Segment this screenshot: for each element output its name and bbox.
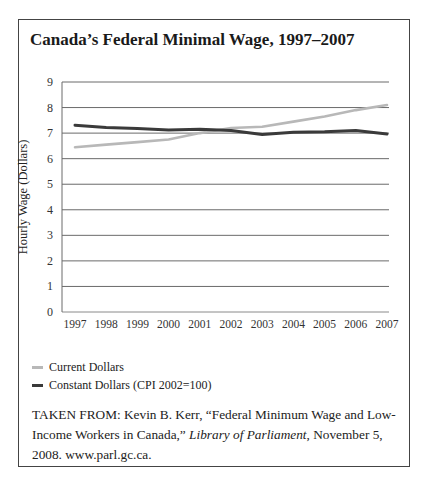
gridlines	[62, 82, 389, 312]
x-tick-label: 2004	[282, 318, 305, 330]
x-tick-label: 2007	[376, 318, 399, 330]
legend-swatch-current	[32, 366, 43, 369]
x-tick-label: 2002	[220, 318, 243, 330]
y-axis: 0123456789	[47, 75, 62, 319]
y-tick-label: 1	[47, 279, 53, 293]
x-tick-label: 1999	[126, 318, 149, 330]
legend-item-constant: Constant Dollars (CPI 2002=100)	[32, 376, 211, 394]
y-tick-label: 4	[47, 203, 53, 217]
y-axis-label: Hourly Wage (Dollars)	[16, 140, 30, 255]
x-tick-label: 2003	[251, 318, 274, 330]
source-publication: Library of Parliament	[189, 427, 306, 442]
y-tick-label: 8	[47, 101, 53, 115]
x-tick-label: 1998	[95, 318, 118, 330]
y-tick-label: 3	[47, 228, 53, 242]
x-axis: 1997199819992000200120022003200420052006…	[64, 318, 399, 330]
y-tick-label: 5	[47, 177, 53, 191]
y-tick-label: 9	[47, 75, 53, 89]
data-series	[75, 105, 387, 147]
y-tick-label: 2	[47, 254, 53, 268]
y-tick-label: 6	[47, 152, 53, 166]
x-tick-label: 2001	[188, 318, 211, 330]
legend-item-current: Current Dollars	[32, 358, 211, 376]
x-tick-label: 2005	[313, 318, 336, 330]
x-tick-label: 2000	[157, 318, 180, 330]
y-tick-label: 7	[47, 126, 53, 140]
series-current-dollars	[75, 105, 387, 147]
x-tick-label: 1997	[64, 318, 87, 330]
legend-label-current: Current Dollars	[49, 360, 124, 375]
legend: Current Dollars Constant Dollars (CPI 20…	[32, 358, 211, 394]
legend-swatch-constant	[32, 384, 43, 387]
y-tick-label: 0	[47, 305, 53, 319]
x-tick-label: 2006	[344, 318, 367, 330]
source-citation: TAKEN FROM: Kevin B. Kerr, “Federal Mini…	[32, 405, 402, 465]
legend-label-constant: Constant Dollars (CPI 2002=100)	[49, 378, 211, 393]
